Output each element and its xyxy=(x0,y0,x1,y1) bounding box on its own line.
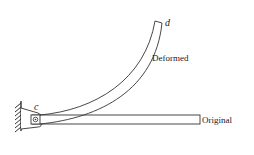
deformed-beam xyxy=(40,21,162,124)
label-original: Original xyxy=(202,115,232,125)
label-point-c: c xyxy=(34,101,39,112)
label-deformed: Deformed xyxy=(152,53,189,63)
label-point-d: d xyxy=(165,17,171,28)
original-beam xyxy=(32,115,200,124)
pin-joint xyxy=(31,115,40,124)
fixed-wall-support xyxy=(15,101,21,132)
beam-deformation-diagram: c d Deformed Original xyxy=(0,0,254,155)
